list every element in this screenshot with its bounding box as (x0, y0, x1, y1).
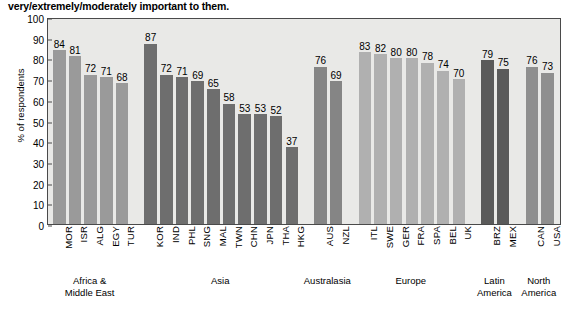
x-axis-label-fra: FRA (415, 226, 426, 246)
x-axis-label-swe: SWE (384, 226, 395, 248)
bar-isr: 81 (69, 56, 82, 224)
bar-value-label: 71 (101, 67, 112, 78)
bar-value-label: 84 (54, 40, 65, 51)
bar-value-label: 69 (192, 71, 203, 82)
group-label-line: Asia (175, 275, 265, 287)
bar-jpn: 53 (254, 114, 267, 224)
bar-value-label: 52 (271, 106, 282, 117)
x-axis-label-twn: TWN (233, 226, 244, 248)
group-label-line: North (494, 275, 567, 287)
bar-value-label: 76 (315, 56, 326, 67)
x-axis-label-bel: BEL (447, 226, 458, 245)
plot-area: 0102030405060708090100 84817271688772716… (47, 18, 561, 225)
group-label-north-america: NorthAmerica (494, 275, 567, 298)
bar-value-label: 72 (85, 64, 96, 75)
y-axis-tick-label: 40 (33, 138, 44, 149)
bar-value-label: 72 (161, 64, 172, 75)
x-axis-label-spa: SPA (431, 226, 442, 245)
bar-value-label: 73 (542, 62, 553, 73)
x-axis-label-ind: IND (170, 226, 181, 243)
bar-alg: 72 (84, 75, 97, 224)
x-axis-label-alg: ALG (94, 226, 105, 246)
bar-value-label: 58 (223, 93, 234, 104)
bar-value-label: 80 (391, 48, 402, 59)
bar-value-label: 53 (255, 104, 266, 115)
bar-value-label: 69 (331, 71, 342, 82)
bar-uk: 70 (453, 79, 466, 224)
bar-itl: 83 (359, 52, 372, 224)
chart-title: very/extremely/moderately important to t… (8, 0, 229, 12)
x-axis-label-kor: KOR (154, 226, 165, 247)
x-axis-label-aus: AUS (324, 226, 335, 246)
bar-can: 76 (526, 67, 539, 224)
group-label-australasia: Australasia (282, 275, 372, 287)
y-axis-tick-label: 70 (33, 76, 44, 87)
x-axis-label-isr: ISR (78, 226, 89, 242)
bar-mal: 65 (207, 89, 220, 224)
bar-series: 8481727168877271696558535352377669838280… (48, 19, 560, 224)
group-label-line: Australasia (282, 275, 372, 287)
bar-value-label: 65 (208, 79, 219, 90)
bar-bel: 74 (437, 71, 450, 224)
bar-value-label: 78 (422, 52, 433, 63)
bar-chn: 53 (238, 114, 251, 224)
bar-value-label: 82 (375, 44, 386, 55)
bar-fra: 80 (406, 58, 419, 224)
bar-usa: 73 (541, 73, 554, 224)
bar-brz: 79 (481, 60, 494, 224)
bar-hkg: 37 (286, 147, 299, 224)
y-axis-tick-label: 30 (33, 158, 44, 169)
bar-value-label: 87 (145, 33, 156, 44)
bar-nzl: 69 (330, 81, 343, 224)
y-axis-tick-label: 20 (33, 179, 44, 190)
bar-tur: 68 (116, 83, 129, 224)
x-axis-label-ger: GER (400, 226, 411, 247)
y-axis-tick-label: 80 (33, 55, 44, 66)
bar-swe: 82 (374, 54, 387, 224)
x-axis-label-tha: THA (280, 226, 291, 246)
bar-value-label: 68 (116, 73, 127, 84)
bar-value-label: 81 (69, 46, 80, 57)
x-axis-label-mal: MAL (217, 226, 228, 246)
bar-twn: 58 (223, 104, 236, 224)
x-axis-label-sng: SNG (201, 226, 212, 247)
group-label-asia: Asia (175, 275, 265, 287)
y-axis-tick-label: 10 (33, 200, 44, 211)
x-axis-label-tur: TUR (125, 226, 136, 246)
x-axis-label-jpn: JPN (264, 226, 275, 245)
bar-aus: 76 (314, 67, 327, 224)
bar-egy: 71 (100, 77, 113, 224)
bar-value-label: 80 (406, 48, 417, 59)
group-label-line: Europe (366, 275, 456, 287)
x-axis-label-can: CAN (535, 226, 546, 247)
bar-value-label: 70 (453, 69, 464, 80)
group-label-line: America (494, 287, 567, 299)
bar-value-label: 71 (176, 67, 187, 78)
bar-value-label: 79 (482, 50, 493, 61)
bar-value-label: 83 (359, 42, 370, 53)
bar-ger: 80 (390, 58, 403, 224)
bar-value-label: 75 (498, 58, 509, 69)
bar-value-label: 37 (286, 137, 297, 148)
bar-spa: 78 (421, 63, 434, 224)
group-label-europe: Europe (366, 275, 456, 287)
bar-sng: 69 (191, 81, 204, 224)
bar-value-label: 76 (526, 56, 537, 67)
x-axis-group-labels: Africa &Middle EastAsiaAustralasiaEurope… (47, 275, 561, 309)
bar-value-label: 74 (438, 60, 449, 71)
x-axis-label-usa: USA (551, 226, 562, 246)
y-axis-tick-label: 100 (27, 14, 44, 25)
x-axis-label-mor: MOR (63, 226, 74, 249)
bar-tha: 52 (270, 116, 283, 224)
y-axis-tick-label: 50 (33, 117, 44, 128)
x-axis-label-hkg: HKG (295, 226, 306, 247)
bar-mor: 84 (53, 50, 66, 224)
bar-kor: 87 (144, 44, 157, 224)
bar-mex: 75 (497, 69, 510, 224)
chart-page: very/extremely/moderately important to t… (0, 0, 567, 309)
x-axis-label-mex: MEX (507, 226, 518, 247)
x-axis-label-nzl: NZL (340, 226, 351, 245)
group-label-line: Africa & (45, 275, 135, 287)
bar-phl: 71 (176, 77, 189, 224)
y-axis-label: % of respondents (15, 41, 26, 171)
